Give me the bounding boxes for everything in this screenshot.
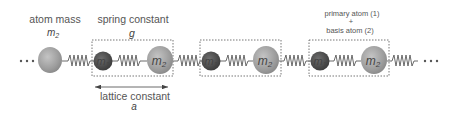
spring-constant-label: spring constant bbox=[97, 13, 168, 25]
atom-cell2-m2: m2 bbox=[253, 46, 279, 74]
spring-icon bbox=[279, 55, 311, 66]
ellipsis-right-icon bbox=[424, 60, 438, 62]
spring-icon bbox=[112, 55, 147, 66]
spring-icon bbox=[220, 55, 253, 66]
spring-constant-symbol: g bbox=[129, 27, 135, 39]
atom-cell3-m1: m1 bbox=[311, 52, 330, 71]
spring-icon bbox=[387, 55, 418, 66]
ellipsis-left-icon bbox=[20, 60, 34, 62]
lattice-constant-symbol: a bbox=[131, 101, 137, 112]
atom-mass-label: atom mass bbox=[29, 13, 80, 25]
diatomic-chain-diagram: atom mass m2 spring constant g primary a… bbox=[0, 0, 459, 113]
atom-cell2-m1: m1 bbox=[202, 52, 221, 71]
plus-label: + bbox=[349, 17, 354, 26]
spring-icon bbox=[329, 55, 361, 66]
atom-cell1-m2: m2 bbox=[147, 46, 173, 74]
atom-cell1-m1: m1 bbox=[94, 52, 113, 71]
basis-atom-label: basis atom (2) bbox=[326, 26, 374, 35]
spring-icon bbox=[62, 55, 94, 66]
atom-mass-symbol: m2 bbox=[47, 27, 59, 39]
atom-lead-m2 bbox=[38, 47, 62, 73]
atom-cell3-m2: m2 bbox=[361, 46, 387, 74]
spring-icon bbox=[173, 55, 202, 66]
